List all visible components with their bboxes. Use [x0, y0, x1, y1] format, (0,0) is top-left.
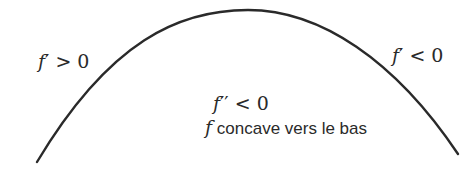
- second-derivative-label: f′′ < 0: [213, 94, 269, 113]
- inequality: < 0: [229, 92, 269, 114]
- double-prime-mark: ′′: [220, 92, 229, 114]
- inequality: > 0: [49, 50, 89, 72]
- function-symbol: f: [213, 92, 220, 114]
- left-derivative-label: f′ > 0: [38, 52, 89, 71]
- concave-down-curve: [0, 0, 476, 169]
- right-derivative-label: f′ < 0: [392, 46, 443, 65]
- function-symbol: f: [205, 116, 212, 138]
- function-symbol: f: [392, 44, 399, 66]
- concavity-caption: f concave vers le bas: [205, 118, 367, 137]
- caption-text: concave vers le bas: [212, 119, 367, 138]
- function-symbol: f: [38, 50, 45, 72]
- inequality: < 0: [403, 44, 443, 66]
- concavity-diagram: f′ > 0 f′ < 0 f′′ < 0 f concave vers le …: [0, 0, 476, 169]
